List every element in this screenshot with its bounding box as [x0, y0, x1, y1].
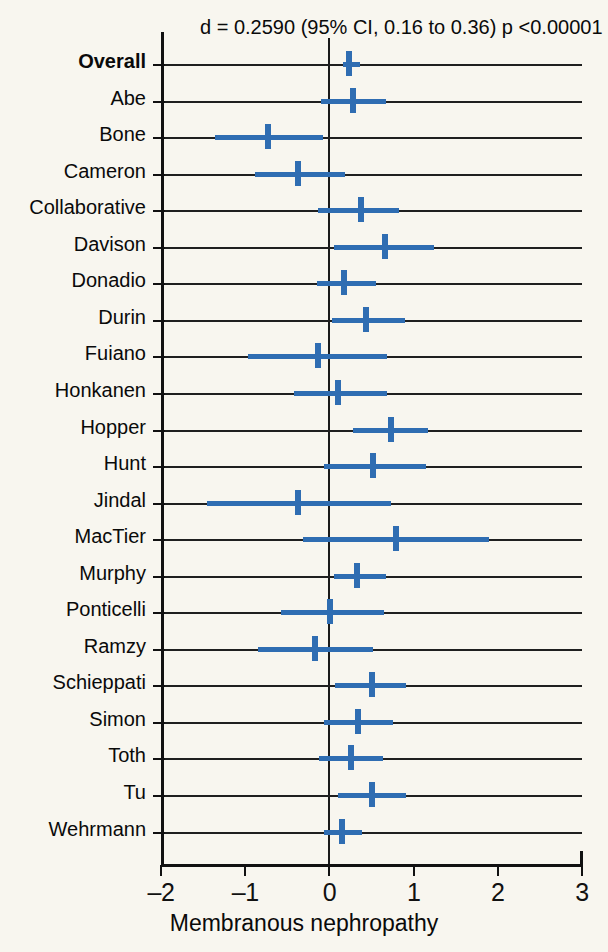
x-tick-label-5: 3 [552, 878, 608, 907]
row-tick [153, 649, 165, 651]
point-estimate-cameron [295, 161, 301, 186]
point-estimate-durin [363, 307, 369, 332]
row-tick [153, 430, 165, 432]
row-tick [153, 832, 165, 834]
axis-cap-0 [161, 851, 164, 865]
row-tick [153, 722, 165, 724]
study-label-fuiano: Fuiano [0, 342, 146, 365]
point-estimate-ramzy [312, 636, 318, 661]
row-baseline [161, 832, 582, 834]
study-label-honkanen: Honkanen [0, 379, 146, 402]
row-tick [153, 247, 165, 249]
study-label-jindal: Jindal [0, 489, 146, 512]
study-label-hopper: Hopper [0, 416, 146, 439]
row-tick [153, 576, 165, 578]
row-tick [153, 612, 165, 614]
study-label-schieppati: Schieppati [0, 671, 146, 694]
overall-statistic-annotation: d = 0.2590 (95% CI, 0.16 to 0.36) p <0.0… [200, 16, 603, 39]
study-label-cameron: Cameron [0, 160, 146, 183]
study-label-ponticelli: Ponticelli [0, 598, 146, 621]
row-tick [153, 393, 165, 395]
forest-plot: d = 0.2590 (95% CI, 0.16 to 0.36) p <0.0… [0, 0, 608, 952]
point-estimate-fuiano [315, 343, 321, 368]
study-label-bone: Bone [0, 123, 146, 146]
study-label-simon: Simon [0, 708, 146, 731]
x-tick-3 [413, 865, 415, 876]
row-baseline [161, 174, 582, 176]
row-tick [153, 283, 165, 285]
row-tick [153, 174, 165, 176]
point-estimate-hopper [388, 417, 394, 442]
point-estimate-ponticelli [327, 599, 333, 624]
x-tick-0 [160, 865, 162, 876]
x-tick-4 [497, 865, 499, 876]
point-estimate-simon [355, 709, 361, 734]
x-tick-1 [244, 865, 246, 876]
row-baseline [161, 64, 582, 66]
row-tick [153, 210, 165, 212]
point-estimate-jindal [295, 490, 301, 515]
x-tick-label-2: 0 [299, 878, 359, 907]
study-label-toth: Toth [0, 744, 146, 767]
study-label-tu: Tu [0, 781, 146, 804]
row-tick [153, 795, 165, 797]
point-estimate-toth [348, 745, 354, 770]
study-label-collaborative: Collaborative [0, 196, 146, 219]
row-tick [153, 64, 165, 66]
row-tick [153, 685, 165, 687]
point-estimate-abe [350, 88, 356, 113]
point-estimate-collaborative [358, 197, 364, 222]
row-tick [153, 101, 165, 103]
row-tick [153, 539, 165, 541]
point-estimate-donadio [341, 270, 347, 295]
x-axis-label: Membranous nephropathy [0, 910, 608, 937]
point-estimate-honkanen [335, 380, 341, 405]
point-estimate-bone [265, 124, 271, 149]
axis-cap-1 [580, 851, 583, 865]
point-estimate-overall [346, 51, 352, 76]
point-estimate-wehrmann [339, 819, 345, 844]
plot-left-frame [161, 32, 164, 866]
x-tick-label-3: 1 [384, 878, 444, 907]
study-label-ramzy: Ramzy [0, 635, 146, 658]
x-tick-label-4: 2 [468, 878, 528, 907]
study-label-abe: Abe [0, 87, 146, 110]
x-tick-label-0: –2 [131, 878, 191, 907]
point-estimate-mactier [393, 526, 399, 551]
point-estimate-davison [382, 234, 388, 259]
study-label-murphy: Murphy [0, 562, 146, 585]
row-tick [153, 503, 165, 505]
point-estimate-hunt [370, 453, 376, 478]
study-label-durin: Durin [0, 306, 146, 329]
point-estimate-tu [369, 782, 375, 807]
row-tick [153, 356, 165, 358]
null-effect-reference-line [328, 38, 330, 866]
study-label-davison: Davison [0, 233, 146, 256]
x-tick-5 [581, 865, 583, 876]
x-axis-line [161, 864, 582, 867]
study-label-overall: Overall [0, 50, 146, 73]
row-tick [153, 137, 165, 139]
point-estimate-schieppati [369, 672, 375, 697]
x-tick-2 [328, 865, 330, 876]
x-tick-label-1: –1 [215, 878, 275, 907]
row-tick [153, 758, 165, 760]
study-label-wehrmann: Wehrmann [0, 818, 146, 841]
row-tick [153, 466, 165, 468]
row-tick [153, 320, 165, 322]
study-label-donadio: Donadio [0, 269, 146, 292]
point-estimate-murphy [354, 563, 360, 588]
study-label-hunt: Hunt [0, 452, 146, 475]
study-label-mactier: MacTier [0, 525, 146, 548]
